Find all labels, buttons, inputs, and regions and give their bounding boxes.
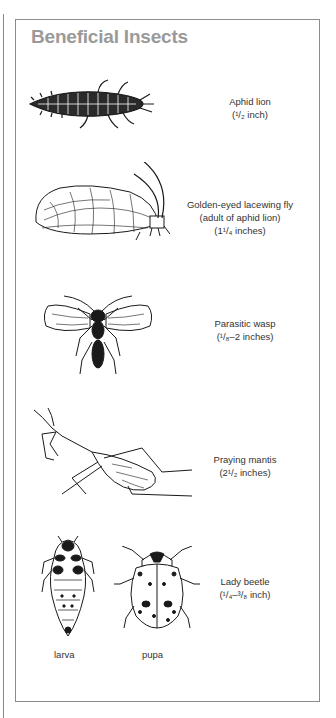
insect-name: Aphid lion xyxy=(205,95,295,108)
lacewing-fly-illustration xyxy=(30,162,170,244)
lacewing-fly-caption: Golden-eyed lacewing fly (adult of aphid… xyxy=(180,198,300,237)
pupa-label: pupa xyxy=(142,649,163,660)
margin-rule xyxy=(3,14,4,718)
insect-name: Parasitic wasp xyxy=(198,317,292,330)
insect-size: (¹/₄–³/₈ inch) xyxy=(205,588,285,601)
insect-size: (2¹/₂ inches) xyxy=(198,466,292,479)
praying-mantis-illustration xyxy=(32,408,194,498)
insect-note: (adult of aphid lion) xyxy=(180,211,300,224)
praying-mantis-caption: Praying mantis (2¹/₂ inches) xyxy=(198,453,292,479)
parasitic-wasp-illustration xyxy=(42,294,154,376)
aphid-lion-caption: Aphid lion (¹/₂ inch) xyxy=(205,95,295,121)
insect-size: (¹/₈–2 inches) xyxy=(198,330,292,343)
insect-name: Lady beetle xyxy=(205,575,285,588)
aphid-lion-illustration xyxy=(28,78,154,130)
insect-name: Praying mantis xyxy=(198,453,292,466)
insect-size: (¹/₂ inch) xyxy=(205,108,295,121)
larva-label: larva xyxy=(54,649,75,660)
lady-beetle-caption: Lady beetle (¹/₄–³/₈ inch) xyxy=(205,575,285,601)
lady-beetle-adult-illustration xyxy=(112,546,202,632)
parasitic-wasp-caption: Parasitic wasp (¹/₈–2 inches) xyxy=(198,317,292,343)
lady-beetle-larva-illustration xyxy=(40,536,96,642)
page-title: Beneficial Insects xyxy=(31,26,188,48)
insect-size: (1¹/₄ inches) xyxy=(180,224,300,237)
insect-name: Golden-eyed lacewing fly xyxy=(180,198,300,211)
